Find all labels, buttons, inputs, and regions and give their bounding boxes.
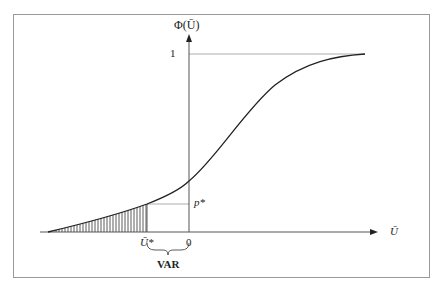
tick-one: 1: [170, 47, 176, 59]
tick-u-star: Ū*: [140, 236, 153, 248]
var-label: VAR: [157, 258, 179, 270]
y-axis-label: Φ(Ū): [174, 18, 199, 33]
cdf-curve: [48, 54, 365, 232]
tick-zero: 0: [186, 236, 192, 248]
y-axis-arrow-icon: [186, 34, 192, 42]
x-axis-label: Ū: [390, 225, 398, 237]
x-axis-arrow-icon: [370, 229, 378, 235]
cdf-diagram: [0, 0, 443, 290]
tick-p-star: p*: [194, 196, 205, 208]
